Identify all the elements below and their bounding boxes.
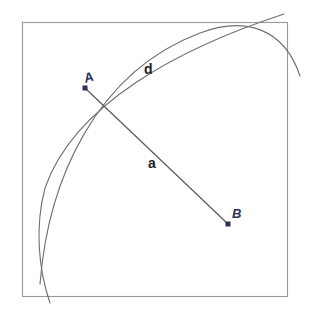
arc-d xyxy=(40,26,300,284)
point-b-marker xyxy=(226,222,231,227)
arc-secondary xyxy=(39,14,284,303)
diagram-canvas: A B d a xyxy=(0,0,311,321)
point-b-label: B xyxy=(232,207,241,220)
point-a-marker xyxy=(83,86,88,91)
arc-d-label: d xyxy=(144,62,153,76)
segment-a-label: a xyxy=(148,156,156,170)
segment-a xyxy=(85,88,228,224)
